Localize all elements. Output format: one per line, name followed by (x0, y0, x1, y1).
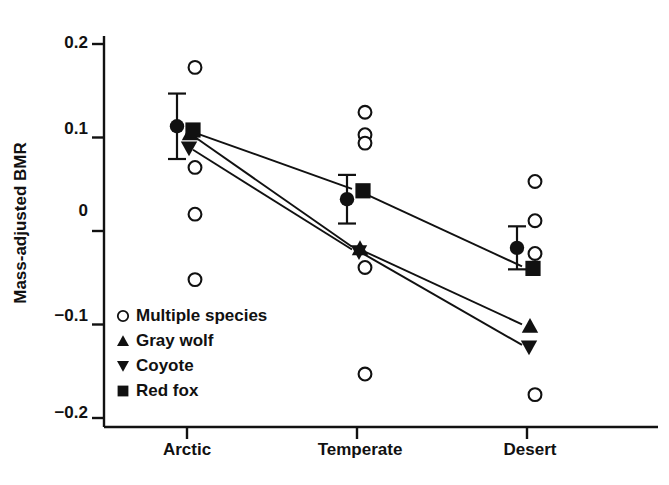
series-line-red-fox (193, 132, 352, 189)
axis-lines (104, 36, 658, 427)
point-filled-up-triangle (522, 318, 538, 333)
point-filled-down-triangle (521, 341, 537, 356)
series-line-gray-wolf (363, 251, 522, 325)
point-open-circle (189, 61, 202, 74)
data-points (168, 61, 541, 401)
point-open-circle (359, 106, 372, 119)
point-filled-circle (340, 192, 354, 206)
point-filled-circle (510, 241, 524, 255)
series-line-gray-wolf (193, 136, 352, 247)
trend-lines (193, 132, 522, 345)
point-filled-circle (170, 119, 184, 133)
series-line-red-fox (363, 193, 522, 267)
point-open-circle (359, 261, 372, 274)
point-open-circle (189, 273, 202, 286)
series-line-coyote (193, 150, 352, 250)
axis-ticks (92, 44, 527, 439)
point-filled-square (185, 122, 200, 137)
point-filled-square (525, 261, 540, 276)
plot-area (0, 0, 669, 485)
point-filled-down-triangle (181, 141, 197, 156)
series-line-coyote (363, 254, 522, 345)
point-open-circle (359, 368, 372, 381)
point-open-circle (189, 208, 202, 221)
point-open-circle (529, 175, 542, 188)
point-open-circle (189, 161, 202, 174)
chart-figure: Mass-adjusted BMR 0.2 0.1 0 −0.1 −0.2 Ar… (0, 0, 669, 485)
point-filled-square (355, 183, 370, 198)
point-open-circle (529, 247, 542, 260)
point-open-circle (529, 388, 542, 401)
point-open-circle (529, 214, 542, 227)
point-open-circle (359, 137, 372, 150)
